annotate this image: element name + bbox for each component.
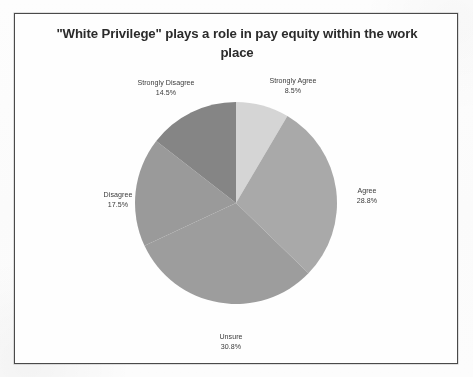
pie-label-unsure: Unsure 30.8%	[193, 332, 269, 353]
pie-label-strongly-disagree-name: Strongly Disagree	[119, 78, 213, 88]
pie-label-strongly-agree: Strongly Agree 8.5%	[253, 76, 333, 97]
pie-label-strongly-agree-value: 8.5%	[253, 86, 333, 96]
chart-frame: "White Privilege" plays a role in pay eq…	[14, 13, 458, 364]
pie-label-strongly-disagree: Strongly Disagree 14.5%	[119, 78, 213, 99]
pie-label-disagree-name: Disagree	[87, 190, 149, 200]
pie-label-disagree-value: 17.5%	[87, 200, 149, 210]
pie-label-unsure-name: Unsure	[193, 332, 269, 342]
pie-label-strongly-disagree-value: 14.5%	[119, 88, 213, 98]
pie-label-agree: Agree 28.8%	[337, 186, 397, 207]
pie-label-disagree: Disagree 17.5%	[87, 190, 149, 211]
pie-label-unsure-value: 30.8%	[193, 342, 269, 352]
pie-chart-plot-area: Strongly Agree 8.5% Agree 28.8% Unsure 3…	[15, 14, 459, 365]
pie-label-agree-value: 28.8%	[337, 196, 397, 206]
pie-label-strongly-agree-name: Strongly Agree	[253, 76, 333, 86]
pie-label-agree-name: Agree	[337, 186, 397, 196]
pie-chart-graphic	[134, 101, 338, 305]
